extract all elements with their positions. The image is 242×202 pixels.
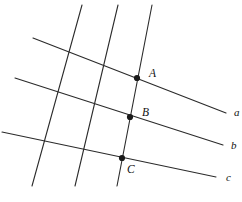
geometry-figure: A B C a b c [0, 0, 242, 202]
transversal-lines-group [2, 38, 226, 177]
steep-line-middle [75, 5, 118, 186]
point-label-b: B [142, 106, 149, 118]
line-label-a: a [234, 106, 240, 118]
point-labels-group: A B C [127, 67, 157, 175]
line-labels-group: a b c [226, 106, 240, 183]
line-label-b: b [231, 139, 237, 151]
steep-lines-group [32, 5, 152, 186]
point-dot-a [134, 75, 140, 81]
point-dot-c [119, 155, 125, 161]
transversal-line-a [33, 38, 226, 113]
steep-line-left [32, 5, 82, 186]
point-label-c: C [127, 163, 135, 175]
point-label-a: A [148, 67, 157, 79]
diagram-canvas: A B C a b c [0, 0, 242, 202]
line-label-c: c [226, 171, 231, 183]
transversal-line-c [2, 132, 216, 177]
point-dot-b [127, 114, 133, 120]
vertex-dots-group [119, 75, 140, 161]
